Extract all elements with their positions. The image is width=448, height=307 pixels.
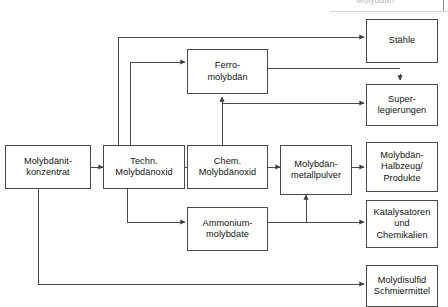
node-ammoniummolybdate[interactable]: Ammonium- molybdate [187,207,268,251]
edge-techn-ammonium [127,189,185,222]
node-ferromolybdaen[interactable]: Ferro- molybdän [187,49,268,94]
node-techn-molybdaenoxid[interactable]: Techn. Molybdänoxid [103,145,185,189]
node-superlegierungen[interactable]: Super- legierungen [366,84,438,126]
node-molydisulfid-schmiermittel[interactable]: Molydisulfid Schmiermittel [366,265,438,307]
node-molybdaen-metallpulver[interactable]: Molybdän- metallpulver [280,145,352,195]
node-molybdaenitkonzentrat[interactable]: Molybdänit- konzentrat [5,145,91,189]
cropped-header-text: Molybdän [356,0,436,5]
edge-techn-ferro [130,62,185,145]
node-chem-molybdaenoxid[interactable]: Chem. Molybdänoxid [187,145,268,189]
flowchart-diagram: Molybdän [0,0,448,307]
node-katalysatoren-chemikalien[interactable]: Katalysatoren und Chemikalien [366,200,438,248]
node-molybdaen-halbzeug[interactable]: Molybdän- Halbzeug/ Produkte [366,142,438,192]
node-staehle[interactable]: Stähle [366,19,438,63]
page-edge-rule-horizontal [330,11,448,12]
